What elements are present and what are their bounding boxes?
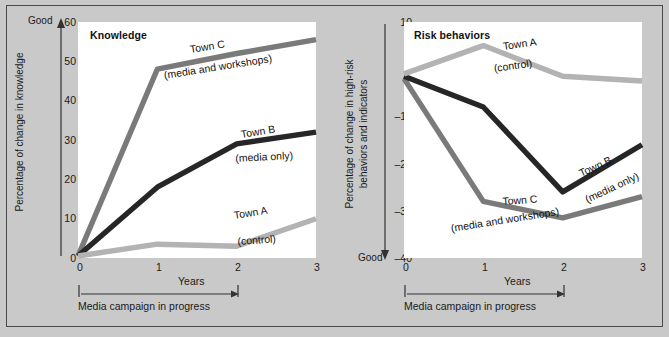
ytick-knowledge-10: 10 [56,213,76,223]
plot-area-knowledge [78,22,316,258]
xtick-knowledge-3: 3 [305,262,329,272]
figure-container: Percentage of change in knowledge Good 6… [0,0,669,337]
good-label-knowledge: Good [28,15,52,26]
y-axis-title-risk-line1: Percentage of change in high-risk [344,12,356,256]
panel-title-risk: Risk behaviors [414,29,490,41]
ytick-knowledge-40: 40 [56,95,76,105]
xtick-risk-1: 1 [473,262,497,272]
xtick-knowledge-1: 1 [147,262,171,272]
xtick-risk-3: 3 [631,262,655,272]
campaign-label-knowledge: Media campaign in progress [78,300,210,312]
ytick-knowledge-50: 50 [56,56,76,66]
knowledge-lines [78,22,316,258]
panel-knowledge: Percentage of change in knowledge Good 6… [0,0,335,337]
ytick-knowledge-30: 30 [56,135,76,145]
good-arrow-down-icon [378,22,392,260]
y-axis-title-knowledge: Percentage of change in knowledge [14,12,25,252]
xtick-risk-2: 2 [552,262,576,272]
xtick-risk-0: 0 [394,262,418,272]
panel-risk-behaviors: Percentage of change in high-risk behavi… [334,0,669,337]
annotation-town-c-name: Town C [502,193,538,207]
ytick-knowledge-60: 60 [56,17,76,27]
panel-title-knowledge: Knowledge [90,29,147,41]
y-axis-title-risk-line2: behaviors and indicators [358,12,370,256]
ytick-knowledge-20: 20 [56,174,76,184]
campaign-label-risk: Media campaign in progress [404,300,536,312]
xtick-knowledge-0: 0 [68,262,92,272]
xtick-knowledge-2: 2 [226,262,250,272]
